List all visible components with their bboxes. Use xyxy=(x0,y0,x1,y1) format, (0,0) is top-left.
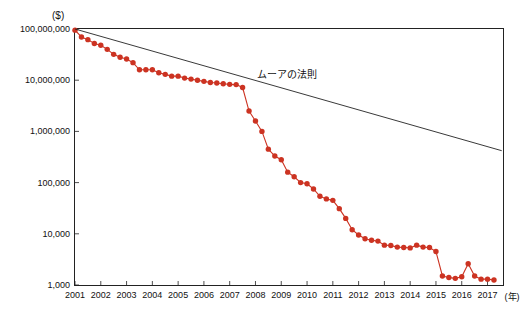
data-point xyxy=(465,261,470,266)
data-point xyxy=(491,277,496,282)
data-point xyxy=(188,76,193,81)
data-point xyxy=(124,56,129,61)
data-point xyxy=(240,85,245,90)
data-point xyxy=(246,108,251,113)
data-point xyxy=(175,73,180,78)
x-tick-label: 2010 xyxy=(297,290,317,300)
y-tick-label: 1,000 xyxy=(47,280,70,290)
y-tick-label: 1,000,000 xyxy=(30,126,70,136)
data-point xyxy=(253,118,258,123)
data-point xyxy=(117,55,122,60)
data-point xyxy=(311,186,316,191)
data-point xyxy=(427,245,432,250)
data-point xyxy=(291,174,296,179)
x-tick-label: 2003 xyxy=(117,290,137,300)
data-point xyxy=(92,41,97,46)
data-point xyxy=(349,227,354,232)
data-point xyxy=(195,78,200,83)
data-point xyxy=(279,157,284,162)
data-point xyxy=(150,67,155,72)
y-axis-tick-labels: 100,000,00010,000,0001,000,000100,00010,… xyxy=(0,28,70,286)
data-point xyxy=(259,129,264,134)
data-point xyxy=(440,273,445,278)
x-tick-label: 2009 xyxy=(271,290,291,300)
data-point xyxy=(485,276,490,281)
data-point xyxy=(182,75,187,80)
data-point xyxy=(163,72,168,77)
sequencing-cost-chart: ($) 100,000,00010,000,0001,000,000100,00… xyxy=(0,0,527,328)
data-point xyxy=(395,244,400,249)
data-point xyxy=(272,153,277,158)
data-point xyxy=(407,245,412,250)
data-point xyxy=(401,245,406,250)
data-point xyxy=(227,82,232,87)
data-point xyxy=(233,82,238,87)
data-point xyxy=(143,67,148,72)
x-tick-label: 2007 xyxy=(220,290,240,300)
data-point xyxy=(85,37,90,42)
data-point xyxy=(356,232,361,237)
data-point xyxy=(414,242,419,247)
data-point xyxy=(201,79,206,84)
data-point xyxy=(137,67,142,72)
data-point xyxy=(98,43,103,48)
y-axis-unit-label: ($) xyxy=(52,10,64,21)
data-point xyxy=(369,238,374,243)
data-point xyxy=(382,242,387,247)
y-tick-label: 10,000,000 xyxy=(25,75,70,85)
data-point xyxy=(420,244,425,249)
x-tick-label: 2013 xyxy=(374,290,394,300)
x-tick-label: 2006 xyxy=(194,290,214,300)
x-tick-label: 2016 xyxy=(452,290,472,300)
x-tick-label: 2017 xyxy=(478,290,498,300)
data-point xyxy=(324,196,329,201)
x-tick-label: 2012 xyxy=(349,290,369,300)
x-axis-unit-label: (年) xyxy=(505,290,520,303)
moores-law-annotation: ムーアの法則 xyxy=(257,66,317,81)
data-point xyxy=(388,243,393,248)
data-point xyxy=(105,47,110,52)
data-point xyxy=(214,80,219,85)
x-tick-label: 2005 xyxy=(168,290,188,300)
data-point xyxy=(375,238,380,243)
x-tick-label: 2001 xyxy=(65,290,85,300)
x-axis-tick-labels: 2001200220032004200520062007200820092010… xyxy=(74,290,504,306)
data-point xyxy=(446,275,451,280)
data-point xyxy=(130,60,135,65)
x-tick-label: 2015 xyxy=(426,290,446,300)
data-point xyxy=(343,216,348,221)
data-point xyxy=(472,273,477,278)
data-point xyxy=(79,34,84,39)
data-point xyxy=(330,198,335,203)
data-point xyxy=(266,146,271,151)
data-point xyxy=(317,194,322,199)
y-tick-label: 100,000 xyxy=(37,178,70,188)
data-point xyxy=(362,236,367,241)
data-point xyxy=(169,73,174,78)
data-point xyxy=(304,181,309,186)
x-tick-label: 2011 xyxy=(323,290,342,300)
data-point xyxy=(156,70,161,75)
data-point xyxy=(285,169,290,174)
x-tick-label: 2014 xyxy=(400,290,420,300)
data-point xyxy=(208,80,213,85)
data-point xyxy=(298,180,303,185)
x-tick-label: 2008 xyxy=(245,290,265,300)
data-point xyxy=(433,249,438,254)
series-line-moores-law-line xyxy=(75,29,502,151)
data-point xyxy=(459,274,464,279)
data-point xyxy=(453,276,458,281)
data-point xyxy=(478,276,483,281)
data-point xyxy=(337,206,342,211)
data-point xyxy=(221,81,226,86)
data-point xyxy=(72,27,77,32)
data-point xyxy=(111,52,116,57)
y-tick-label: 10,000 xyxy=(42,229,70,239)
x-tick-label: 2004 xyxy=(142,290,162,300)
x-tick-label: 2002 xyxy=(91,290,111,300)
y-tick-label: 100,000,000 xyxy=(20,24,70,34)
